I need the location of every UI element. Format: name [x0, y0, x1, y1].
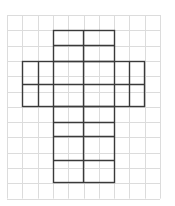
grid-net-diagram: [0, 0, 175, 206]
net-outline: [23, 31, 145, 183]
